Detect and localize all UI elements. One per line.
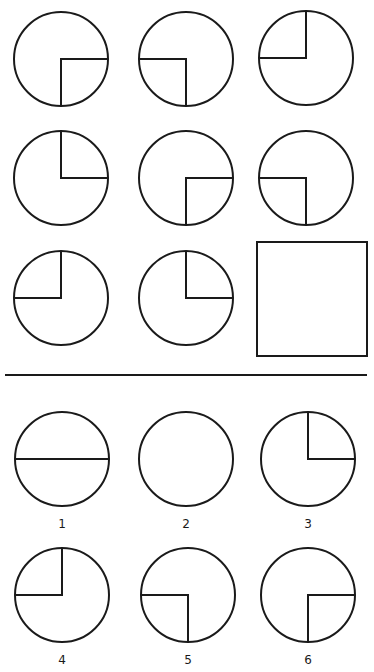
matrix-cell-r1c3	[259, 11, 353, 105]
puzzle-canvas	[0, 0, 374, 672]
circle-outline[interactable]	[139, 412, 233, 506]
matrix-cell-r2c1	[14, 131, 108, 225]
answer-option-4[interactable]	[15, 548, 109, 642]
answer-option-3[interactable]	[261, 412, 355, 506]
matrix-cell-r2c3	[259, 131, 353, 225]
option-number-label: 3	[298, 517, 318, 531]
option-number-label: 1	[52, 517, 72, 531]
answer-option-5[interactable]	[141, 548, 235, 642]
puzzle-matrix	[14, 11, 353, 345]
option-number-label: 6	[298, 653, 318, 667]
answer-option-6[interactable]	[261, 548, 355, 642]
matrix-cell-r1c1	[14, 12, 108, 106]
option-number-label: 4	[52, 653, 72, 667]
option-number-label: 2	[176, 517, 196, 531]
matrix-cell-r3c2	[139, 251, 233, 345]
matrix-cell-r3c1	[14, 251, 108, 345]
option-number-label: 5	[178, 653, 198, 667]
answer-option-2[interactable]	[139, 412, 233, 506]
matrix-cell-r1c2	[139, 12, 233, 106]
missing-cell-box[interactable]	[257, 242, 367, 356]
matrix-cell-r2c2	[139, 131, 233, 225]
answer-option-1[interactable]	[15, 412, 109, 506]
